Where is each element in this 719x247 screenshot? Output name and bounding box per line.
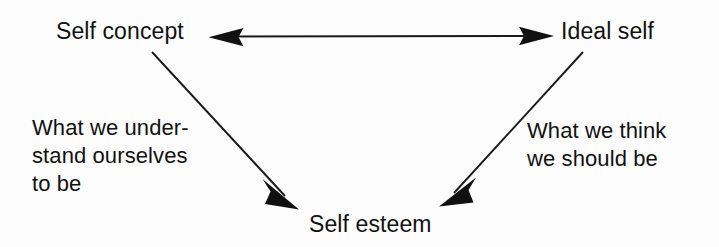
- arrow-head-right-icon: [519, 27, 554, 45]
- arrow-head-down-right-icon: [439, 178, 476, 207]
- node-label-self-esteem: Self esteem: [309, 211, 432, 237]
- node-label-self-concept: Self concept: [56, 18, 184, 44]
- arrow-head-down-left-icon: [263, 179, 300, 210]
- arrow-head-left-icon: [209, 28, 244, 46]
- caption-self-concept: What we under- stand ourselves to be: [32, 114, 189, 198]
- horizontal-double-arrow: [209, 27, 555, 46]
- concept-diagram: Self concept Ideal self Self esteem What…: [0, 0, 719, 247]
- node-label-ideal-self: Ideal self: [561, 18, 654, 44]
- horizontal-arrow-shaft: [222, 36, 541, 37]
- caption-ideal-self: What we think we should be: [527, 117, 666, 173]
